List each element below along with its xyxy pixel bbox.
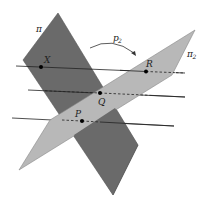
label-p2-sub: 2 xyxy=(117,37,122,44)
label-x: X xyxy=(43,55,51,65)
planes-diagram: π π 2 p 2 X R Q P xyxy=(0,0,205,204)
label-p: P xyxy=(74,109,82,119)
label-q: Q xyxy=(98,97,106,107)
point-p xyxy=(80,119,84,123)
diagram-canvas: π π 2 p 2 X R Q P xyxy=(0,0,205,204)
rotation-arrow xyxy=(90,43,134,53)
line-q-right xyxy=(150,95,185,97)
point-x xyxy=(39,65,43,69)
point-r xyxy=(144,70,148,74)
point-q xyxy=(98,91,102,95)
label-pi: π xyxy=(35,24,43,34)
label-pi2-sub: 2 xyxy=(192,53,197,60)
label-r: R xyxy=(145,59,153,69)
